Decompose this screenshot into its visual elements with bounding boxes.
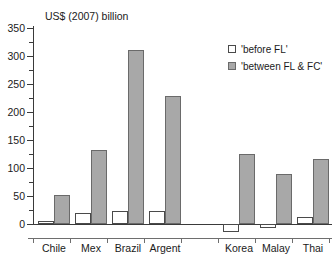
x-axis-label-thai: Thai <box>285 242 335 254</box>
y-tick-minor-175 <box>29 126 33 127</box>
y-tick-350 <box>27 28 33 29</box>
y-tick-minor-275 <box>29 70 33 71</box>
legend-item-before-fl: 'before FL' <box>228 42 322 56</box>
legend-item-between-fl-fc: 'between FL & FC' <box>228 59 322 73</box>
legend-swatch-between-fl-fc <box>228 62 236 70</box>
y-tick-150 <box>27 140 33 141</box>
legend-label-before-fl: 'before FL' <box>241 44 288 55</box>
y-tick-label-text: 100 <box>7 163 25 173</box>
y-tick-minor-325 <box>29 42 33 43</box>
zero-baseline <box>33 224 332 225</box>
y-tick-minor-25 <box>29 210 33 211</box>
category-axis-line <box>28 238 332 239</box>
bar-before-fl <box>112 211 128 224</box>
y-tick-label-text: 300 <box>7 51 25 61</box>
bar-between-fl-fc <box>165 96 181 224</box>
chart-legend: 'before FL' 'between FL & FC' <box>228 42 322 76</box>
y-tick-label-text: 0 <box>19 219 25 229</box>
y-tick-label-text: 50 <box>13 191 25 201</box>
bar-between-fl-fc <box>91 150 107 224</box>
bar-chart: US$ (2007) billion 050100150200250300350… <box>0 0 335 265</box>
bar-before-fl <box>223 224 239 232</box>
x-axis-label-argent: Argent <box>137 242 193 254</box>
bar-before-fl <box>260 224 276 228</box>
y-tick-minor-125 <box>29 154 33 155</box>
y-axis-line <box>33 26 34 225</box>
y-tick-label-text: 200 <box>7 107 25 117</box>
bar-before-fl <box>38 221 54 224</box>
y-tick-300 <box>27 56 33 57</box>
y-tick-minor-225 <box>29 98 33 99</box>
y-tick-0 <box>27 224 33 225</box>
y-tick-label-text: 350 <box>7 23 25 33</box>
y-tick-minor-75 <box>29 182 33 183</box>
bar-between-fl-fc <box>128 50 144 224</box>
bar-before-fl <box>297 217 313 224</box>
y-tick-100 <box>27 168 33 169</box>
y-tick-50 <box>27 196 33 197</box>
bar-before-fl <box>149 211 165 224</box>
bar-between-fl-fc <box>276 174 292 224</box>
legend-swatch-before-fl <box>228 45 236 53</box>
y-tick-200 <box>27 112 33 113</box>
legend-label-between-fl-fc: 'between FL & FC' <box>241 61 322 72</box>
y-tick-label-text: 250 <box>7 79 25 89</box>
y-tick-label-text: 150 <box>7 135 25 145</box>
bar-between-fl-fc <box>239 154 255 224</box>
y-tick-250 <box>27 84 33 85</box>
bar-between-fl-fc <box>54 195 70 224</box>
bar-before-fl <box>75 213 91 224</box>
bar-between-fl-fc <box>313 159 329 224</box>
chart-title: US$ (2007) billion <box>45 10 128 22</box>
